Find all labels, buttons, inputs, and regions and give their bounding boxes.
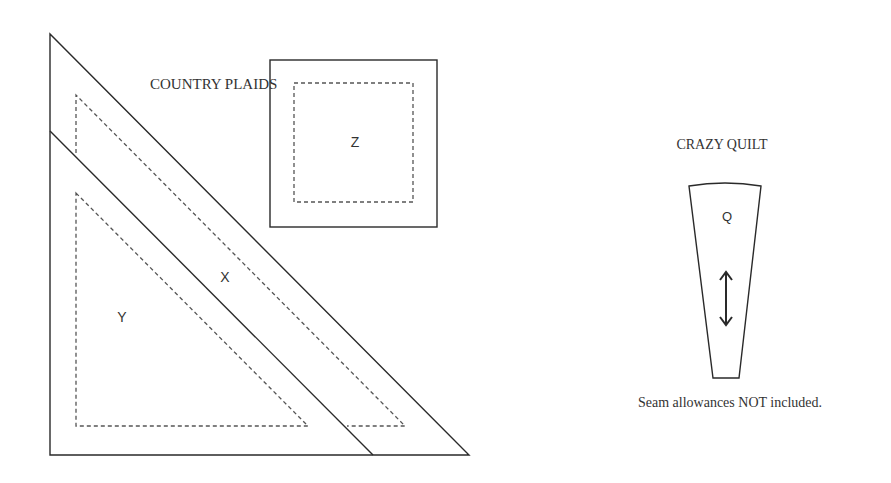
crazy-quilt-title: CRAZY QUILT [676, 137, 768, 152]
piece-y-seam-line [76, 193, 308, 426]
seam-allowance-note: Seam allowances NOT included. [638, 395, 822, 410]
piece-z-label: Z [351, 134, 360, 150]
cut-line-x-y [50, 131, 373, 455]
piece-q-label: Q [722, 209, 732, 224]
country-plaids-title: COUNTRY PLAIDS [150, 76, 277, 92]
outer-triangle-outline [50, 34, 469, 455]
grain-arrow-icon [720, 272, 732, 325]
piece-x-y-triangle [50, 34, 469, 455]
quilt-template-diagram: COUNTRY PLAIDS X Y Z CRAZY QUILT Q Seam … [0, 0, 891, 483]
piece-x-label: X [220, 269, 230, 285]
piece-y-label: Y [117, 309, 127, 325]
